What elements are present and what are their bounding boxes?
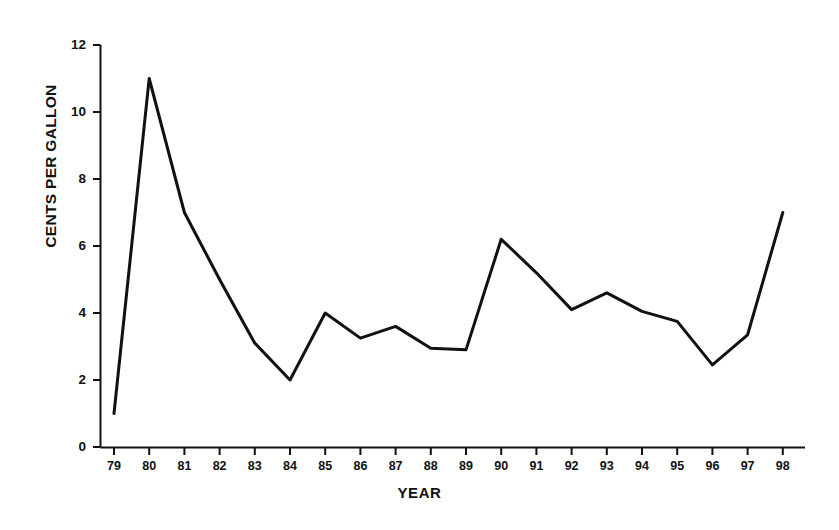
x-axis-tick-label: 80 bbox=[132, 459, 166, 473]
y-axis-tick-label: 0 bbox=[52, 440, 86, 454]
y-axis-ticks bbox=[93, 45, 101, 447]
axis-lines bbox=[101, 45, 806, 448]
chart-figure: CENTS PER GALLON 024681012 7980818283848… bbox=[0, 0, 839, 530]
data-series-line bbox=[114, 79, 783, 414]
y-axis-tick-label: 6 bbox=[52, 239, 86, 253]
y-axis-tick-label: 8 bbox=[52, 172, 86, 186]
x-axis-tick-label: 82 bbox=[203, 459, 237, 473]
x-axis-tick-label: 81 bbox=[167, 459, 201, 473]
x-axis-tick-label: 84 bbox=[273, 459, 307, 473]
x-axis-tick-label: 89 bbox=[449, 459, 483, 473]
x-axis-tick-label: 79 bbox=[97, 459, 131, 473]
x-axis-tick-label: 96 bbox=[695, 459, 729, 473]
x-axis-tick-label: 87 bbox=[379, 459, 413, 473]
x-axis-ticks bbox=[114, 448, 783, 456]
line-chart-plot bbox=[0, 0, 839, 530]
y-axis-tick-label: 2 bbox=[52, 373, 86, 387]
x-axis-tick-label: 88 bbox=[414, 459, 448, 473]
x-axis-tick-label: 98 bbox=[766, 459, 800, 473]
x-axis-tick-label: 91 bbox=[519, 459, 553, 473]
x-axis-tick-label: 97 bbox=[731, 459, 765, 473]
x-axis-tick-label: 83 bbox=[238, 459, 272, 473]
x-axis-tick-label: 85 bbox=[308, 459, 342, 473]
x-axis-tick-label: 90 bbox=[484, 459, 518, 473]
x-axis-tick-label: 86 bbox=[343, 459, 377, 473]
x-axis-tick-label: 95 bbox=[660, 459, 694, 473]
y-axis-tick-label: 12 bbox=[52, 38, 86, 52]
x-axis-tick-label: 94 bbox=[625, 459, 659, 473]
y-axis-tick-label: 4 bbox=[52, 306, 86, 320]
x-axis-title: YEAR bbox=[0, 484, 839, 501]
x-axis-tick-label: 93 bbox=[590, 459, 624, 473]
x-axis-tick-label: 92 bbox=[555, 459, 589, 473]
y-axis-tick-label: 10 bbox=[52, 105, 86, 119]
